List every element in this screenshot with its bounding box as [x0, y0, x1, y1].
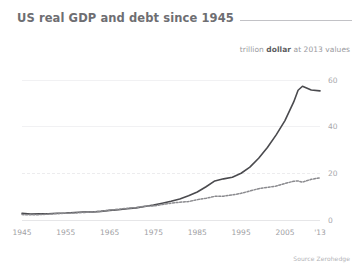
subtitle-emphasis: dollar [266, 45, 291, 54]
x-axis-tick-label: 1955 [56, 228, 75, 237]
x-axis-tick-label: 1995 [232, 228, 251, 237]
series-line-debt [22, 86, 320, 214]
y-axis-tick-label: 20 [328, 169, 338, 178]
source-caption: Source Zerohedge [293, 255, 350, 262]
plot-area [22, 68, 320, 220]
axis-baseline [22, 220, 320, 221]
x-axis-tick-label: 1945 [12, 228, 31, 237]
x-axis-tick-label: 1985 [188, 228, 207, 237]
page-title: US real GDP and debt since 1945 [17, 11, 234, 25]
subtitle-suffix: at 2013 values [291, 45, 350, 54]
y-axis-tick-label: 0 [328, 216, 333, 225]
chart-figure: US real GDP and debt since 1945 trillion… [0, 0, 364, 273]
subtitle-prefix: trillion [240, 45, 267, 54]
y-axis-tick-label: 60 [328, 75, 338, 84]
y-axis-tick-label: 40 [328, 122, 338, 131]
x-axis-tick-label: '13 [314, 228, 326, 237]
x-axis-tick-label: 1975 [144, 228, 163, 237]
chart-subtitle: trillion dollar at 2013 values [240, 45, 350, 54]
x-axis-tick-label: 2005 [275, 228, 294, 237]
series-container [22, 68, 320, 220]
chart-header: US real GDP and debt since 1945 [17, 10, 352, 26]
x-axis-tick-label: 1965 [100, 228, 119, 237]
series-line-gdp [22, 178, 320, 215]
title-rule-divider [240, 20, 352, 21]
